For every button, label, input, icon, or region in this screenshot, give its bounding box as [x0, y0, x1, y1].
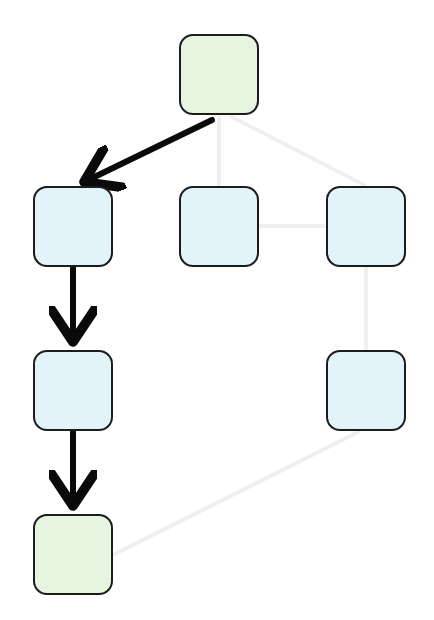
node-level1-middle	[179, 186, 259, 267]
faint-edges	[113, 116, 366, 555]
node-root	[179, 34, 259, 115]
faint-edge-right-lower-to-bottom-left	[113, 431, 360, 555]
diagram-canvas	[0, 0, 434, 620]
highlighted-path	[73, 120, 212, 506]
path-edge-top-to-left	[84, 120, 212, 182]
node-level1-left	[33, 186, 113, 267]
node-goal	[33, 514, 113, 595]
node-level2-left	[33, 350, 113, 431]
faint-edge-top-to-right	[230, 116, 366, 186]
node-level1-right	[326, 186, 406, 267]
node-level2-right	[326, 350, 406, 431]
